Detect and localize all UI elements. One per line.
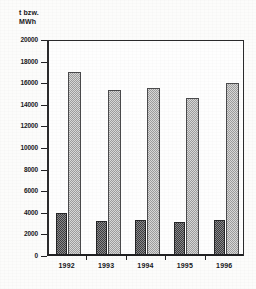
y-axis-tick-label: 14000	[20, 101, 38, 108]
y-axis-tick-label: 10000	[20, 144, 38, 151]
bars-layer	[49, 41, 243, 255]
bar-light-series-1992	[68, 72, 81, 255]
x-axis-tick	[126, 256, 127, 260]
y-axis-tick-label: 18000	[20, 58, 38, 65]
x-axis-category-label-1995: 1995	[165, 262, 204, 269]
bar-dark-series-1994	[135, 220, 146, 255]
x-axis-tick	[165, 256, 166, 260]
y-axis-tick	[41, 256, 47, 257]
y-axis-tick-label: 0	[34, 252, 38, 259]
y-axis-tick-label: 8000	[24, 166, 38, 173]
bar-dark-series-1992	[56, 213, 67, 255]
y-axis-tick-label: 20000	[20, 36, 38, 43]
y-axis-unit-caption: t bzw. MWh	[19, 8, 39, 26]
y-axis-tick-label: 6000	[24, 187, 38, 194]
plot-area	[47, 40, 244, 256]
y-axis-tick-label: 4000	[24, 209, 38, 216]
x-axis-category-label-1994: 1994	[126, 262, 165, 269]
x-axis-category-label-1993: 1993	[86, 262, 125, 269]
y-axis-tick-label: 12000	[20, 122, 38, 129]
y-axis-tick-label: 16000	[20, 79, 38, 86]
bar-chart-figure: t bzw. MWh 02000400060008000100001200014…	[0, 0, 256, 289]
y-axis-tick-label: 2000	[24, 230, 38, 237]
bar-light-series-1993	[108, 90, 121, 255]
bar-light-series-1996	[226, 83, 239, 255]
bar-light-series-1994	[147, 88, 160, 255]
bar-dark-series-1993	[96, 221, 107, 255]
bar-dark-series-1995	[174, 222, 185, 255]
bar-light-series-1995	[186, 98, 199, 255]
bar-dark-series-1996	[214, 220, 225, 255]
x-axis-category-label-1996: 1996	[205, 262, 244, 269]
x-axis-tick	[205, 256, 206, 260]
x-axis-category-label-1992: 1992	[47, 262, 86, 269]
x-axis-tick	[86, 256, 87, 260]
